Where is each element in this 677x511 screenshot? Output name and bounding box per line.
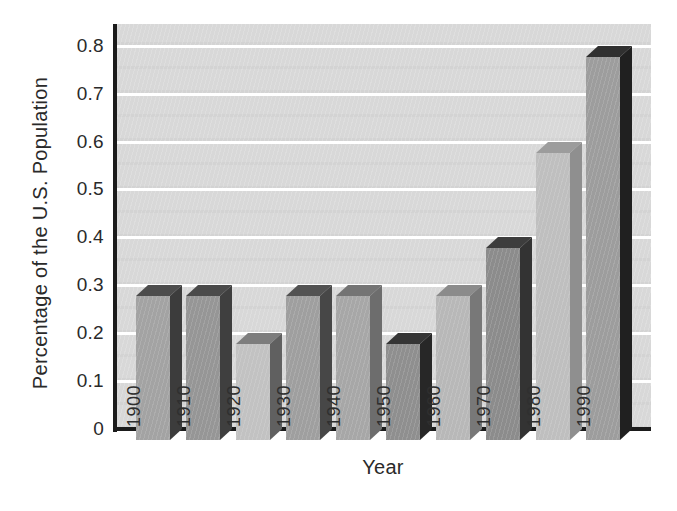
gridline-0.7 <box>117 93 651 96</box>
bar-chart-figure: 00.10.20.30.40.50.60.70.8 19001910192019… <box>0 0 677 511</box>
bar-front-face <box>586 57 620 440</box>
gridline-0.8 <box>117 45 651 48</box>
y-tick-label-0.8: 0.8 <box>38 35 104 57</box>
bar-label-1900: 1900 <box>125 385 144 427</box>
y-axis-title: Percentage of the U.S. Population <box>29 77 52 389</box>
bar-label-1910: 1910 <box>175 385 194 427</box>
bar-label-1920: 1920 <box>225 385 244 427</box>
bar-label-1990: 1990 <box>575 385 594 427</box>
bar-1990: 1990 <box>586 46 632 440</box>
bar-label-1930: 1930 <box>275 385 294 427</box>
bar-label-1950: 1950 <box>375 385 394 427</box>
y-tick-label-0: 0 <box>38 418 104 440</box>
bar-label-1970: 1970 <box>475 385 494 427</box>
bar-label-1960: 1960 <box>425 385 444 427</box>
bar-label-1940: 1940 <box>325 385 344 427</box>
bar-label-1980: 1980 <box>525 385 544 427</box>
y-axis-line <box>113 24 117 432</box>
x-axis-title: Year <box>362 456 404 479</box>
